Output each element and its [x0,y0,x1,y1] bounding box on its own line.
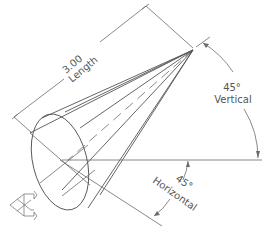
horizontal-angle-extension [60,160,162,226]
vertical-angle-dimension: 45° Vertical [196,37,260,158]
vertical-angle-value: 45° [223,82,241,93]
cone-edge-top [30,50,193,133]
cone-base-ellipse [22,108,98,216]
vertical-arc-lower [244,109,258,158]
vertical-arc-upper [203,43,233,72]
base-cross-line-3 [62,170,95,196]
vertical-extension-line [196,37,210,47]
cone-drawing: 3.00 Length 45° Vertical [0,0,270,230]
horizontal-angle-dimension: 45° Horizontal [151,161,199,216]
vertical-angle-label: Vertical [214,94,251,105]
ucs-orientation-icon [10,191,37,220]
cone-generator-2 [65,50,193,112]
length-dim-line-upper [100,6,146,42]
ucs-axis-upper [10,191,37,205]
horizontal-arrow-top [186,161,190,167]
length-extension-apex [146,6,193,48]
length-extension-base [14,117,32,133]
ucs-axis-lower [10,205,37,220]
vertical-arrow-bottom [256,151,260,158]
vertical-arrow-top [203,43,209,48]
